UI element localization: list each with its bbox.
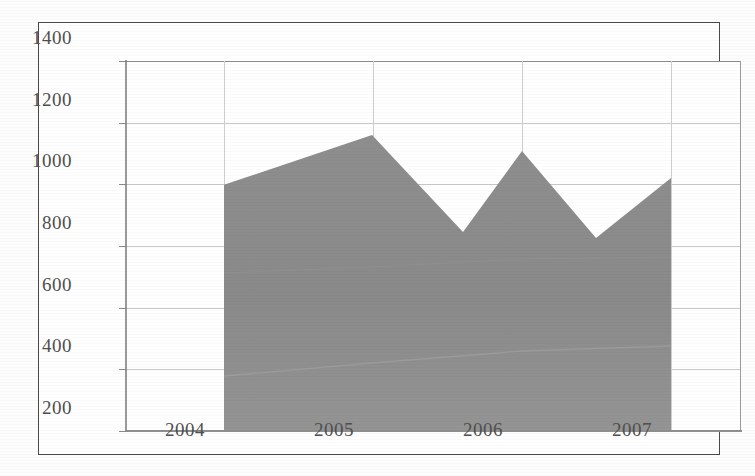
y-tick-1200 [119, 123, 127, 124]
y-tick-200 [119, 431, 127, 432]
area-series-1 [224, 135, 671, 431]
y-tick-400 [119, 369, 127, 370]
y-axis-label-200: 200 [12, 398, 72, 417]
y-tick-800 [119, 246, 127, 247]
x-axis-label-2004: 2004 [140, 420, 230, 439]
series-layer [126, 61, 741, 431]
x-axis-label-2007: 2007 [587, 420, 677, 439]
y-axis-label-1000: 1000 [12, 151, 72, 170]
chart-screenshot: 1400 1200 1000 800 600 400 200 2004 2005… [0, 0, 755, 476]
x-axis-label-2005: 2005 [289, 420, 379, 439]
y-axis-label-600: 600 [12, 275, 72, 294]
y-axis-label-1400: 1400 [12, 28, 72, 47]
y-tick-600 [119, 308, 127, 309]
chart-frame [38, 22, 720, 455]
y-axis-label-800: 800 [12, 213, 72, 232]
y-axis-label-1200: 1200 [12, 90, 72, 109]
y-axis-label-400: 400 [12, 336, 72, 355]
x-axis-label-2006: 2006 [438, 420, 528, 439]
y-tick-1000 [119, 184, 127, 185]
y-tick-1400 [119, 61, 127, 62]
